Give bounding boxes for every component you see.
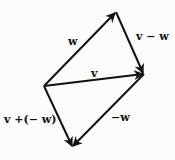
label-v-plus-neg-w: v +(− w) (4, 114, 56, 125)
vector-diagram: w v − w v v +(− w) −w (0, 0, 175, 160)
vector-neg-w-arrow (73, 74, 144, 146)
vector-w-arrow (44, 13, 115, 86)
label-w: w (68, 36, 77, 47)
label-v-minus-w: v − w (136, 31, 169, 42)
vector-diagram-canvas (0, 0, 175, 160)
label-v: v (91, 68, 97, 79)
label-neg-w: −w (111, 112, 130, 123)
